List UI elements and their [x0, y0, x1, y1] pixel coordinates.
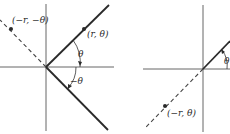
label-neg-r-theta: (−r, θ) [167, 108, 197, 118]
right-label-theta: θ [224, 56, 230, 66]
point-r-theta [82, 27, 86, 31]
polar-coordinates-figure: (−r, −θ) (r, θ) θ −θ θ (−r, θ) [0, 0, 230, 134]
label-theta: θ [78, 49, 84, 59]
point-neg-r-neg-theta [9, 27, 13, 31]
label-neg-theta: −θ [70, 76, 84, 86]
arrowhead-theta [78, 61, 82, 66]
left-panel: (−r, −θ) (r, θ) θ −θ [0, 4, 114, 131]
label-r-theta: (r, θ) [87, 29, 109, 39]
label-neg-r-neg-theta: (−r, −θ) [12, 15, 49, 25]
right-dashed-extension [146, 69, 203, 127]
left-dashed-extension [0, 20, 46, 67]
right-panel: θ (−r, θ) [143, 5, 230, 132]
